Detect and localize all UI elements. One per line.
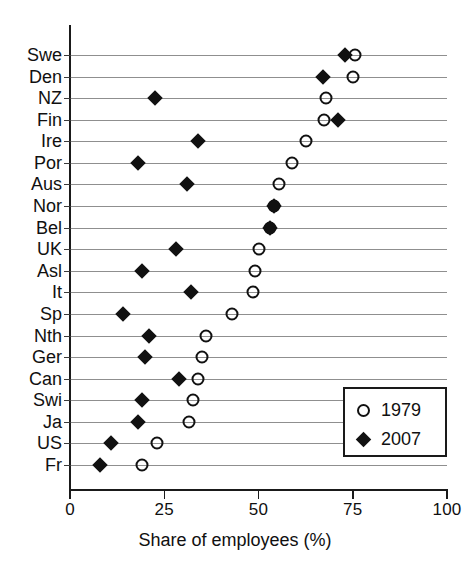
dot-plot-chart: SweDenNZFinIrePorAusNorBelUKAslItSpNthGe… — [0, 0, 470, 585]
data-point-1979-Aus — [273, 178, 286, 191]
category-label-swe: Swe — [27, 46, 62, 64]
data-point-1979-UK — [252, 243, 265, 256]
x-tick-label: 75 — [343, 500, 362, 520]
category-label-por: Por — [34, 154, 62, 172]
category-label-ger: Ger — [32, 348, 62, 366]
x-tick — [164, 491, 166, 499]
category-label-swi: Swi — [33, 391, 62, 409]
category-label-uk: UK — [37, 240, 62, 258]
x-tick — [446, 491, 448, 499]
x-tick-label: 50 — [249, 500, 268, 520]
category-label-ire: Ire — [41, 132, 62, 150]
data-point-1979-Asl — [248, 264, 261, 277]
data-point-1979-Den — [346, 70, 359, 83]
category-label-it: It — [52, 283, 62, 301]
category-axis-labels: SweDenNZFinIrePorAusNorBelUKAslItSpNthGe… — [0, 0, 62, 585]
category-label-fr: Fr — [45, 456, 62, 474]
data-point-1979-Swi — [186, 394, 199, 407]
x-tick-label: 0 — [65, 500, 75, 520]
data-point-1979-Ger — [195, 351, 208, 364]
data-point-1979-Ja — [182, 415, 195, 428]
category-label-nz: NZ — [38, 89, 62, 107]
data-point-1979-NZ — [320, 92, 333, 105]
open-circle-icon — [355, 400, 375, 420]
category-label-ja: Ja — [43, 413, 62, 431]
data-point-1979-US — [150, 437, 163, 450]
data-point-1979-Sp — [226, 307, 239, 320]
legend-item-2007: 2007 — [355, 424, 445, 453]
x-axis-title: Share of employees (%) — [0, 530, 470, 551]
category-label-aus: Aus — [31, 175, 62, 193]
x-tick — [69, 491, 71, 499]
data-point-1979-Fr — [135, 459, 148, 472]
category-label-bel: Bel — [36, 219, 62, 237]
legend: 1979 2007 — [343, 387, 447, 457]
x-tick — [352, 491, 354, 499]
legend-label: 2007 — [381, 430, 421, 448]
category-label-asl: Asl — [37, 262, 62, 280]
category-label-us: US — [37, 434, 62, 452]
data-point-1979-Can — [192, 372, 205, 385]
x-tick — [258, 491, 260, 499]
category-label-can: Can — [29, 370, 62, 388]
data-point-1979-Nth — [199, 329, 212, 342]
x-tick-label: 100 — [433, 500, 462, 520]
filled-diamond-icon — [355, 429, 375, 449]
category-label-den: Den — [29, 68, 62, 86]
data-point-1979-It — [246, 286, 259, 299]
category-label-nor: Nor — [33, 197, 62, 215]
legend-label: 1979 — [381, 401, 421, 419]
category-label-sp: Sp — [40, 305, 62, 323]
data-point-1979-Por — [286, 156, 299, 169]
data-point-1979-Ire — [299, 135, 312, 148]
category-label-fin: Fin — [37, 111, 62, 129]
category-label-nth: Nth — [34, 327, 62, 345]
x-tick-label: 25 — [155, 500, 174, 520]
legend-item-1979: 1979 — [355, 395, 445, 424]
